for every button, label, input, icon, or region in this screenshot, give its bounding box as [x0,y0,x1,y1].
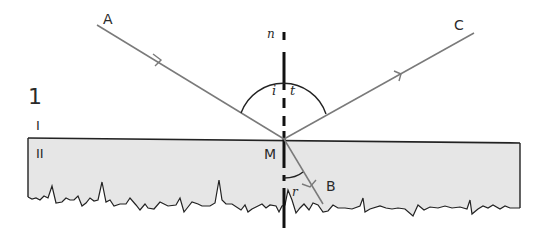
reflected-ray [284,33,474,139]
medium-i-label: I [36,118,40,133]
optics-diagram: 1 I II A C M B n i t r [0,0,554,240]
angle-t-label: t [290,83,296,98]
incident-ray [97,25,284,139]
figure-number: 1 [28,84,42,109]
point-c-label: C [454,17,464,33]
angle-i-label: i [272,83,276,98]
point-b-label: B [326,178,336,194]
normal-label: n [267,27,275,41]
point-m-label: M [264,146,276,162]
point-a-label: A [103,11,113,27]
medium-ii-label: II [36,146,44,161]
